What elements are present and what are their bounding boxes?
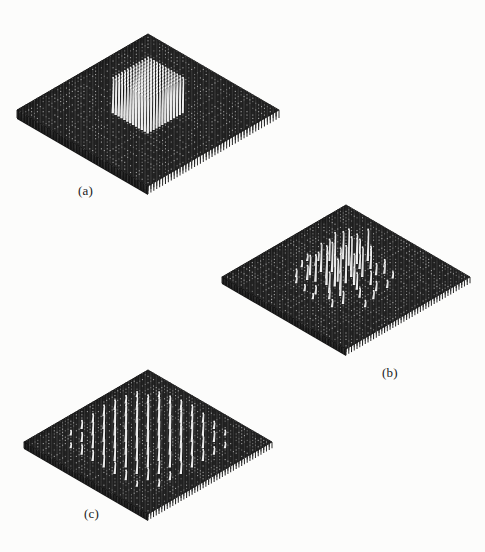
panel-b-plot — [210, 190, 485, 370]
panel-c — [12, 355, 287, 535]
panel-a-plot — [0, 0, 300, 210]
panel-c-plot — [12, 355, 287, 535]
panel-a — [0, 0, 300, 210]
panel-c-label: (c) — [84, 506, 99, 522]
panel-b-label: (b) — [382, 365, 398, 381]
panel-b — [210, 190, 485, 370]
panel-a-label: (a) — [78, 183, 93, 199]
figure-container: (a) (b) (c) — [0, 0, 485, 552]
